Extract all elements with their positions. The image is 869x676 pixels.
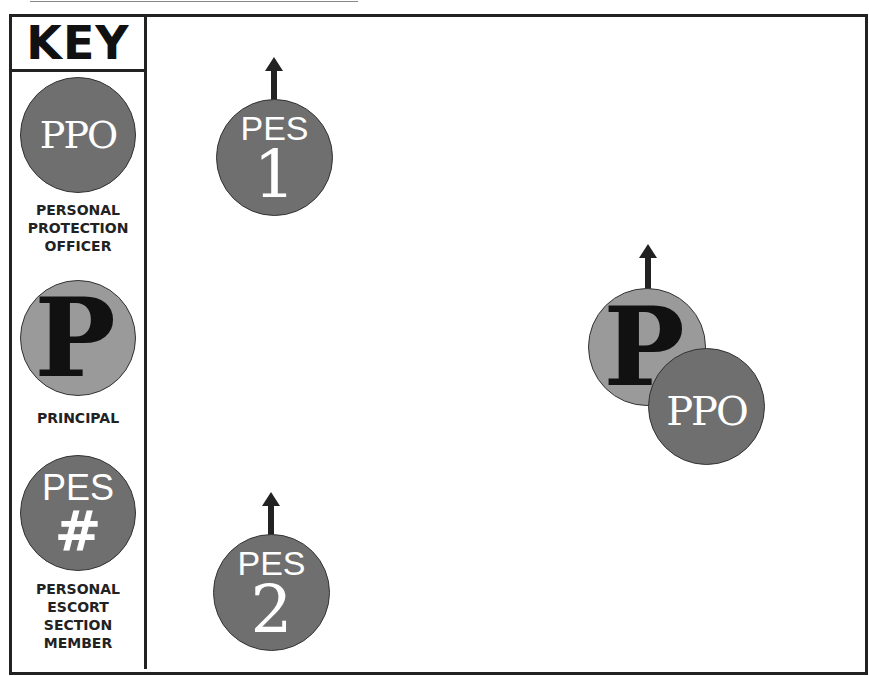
key-ppo-text: PPO bbox=[40, 116, 116, 154]
key-title: KEY bbox=[12, 17, 144, 72]
pes2-marker: PES 2 bbox=[213, 534, 330, 651]
ppo-marker: PPO bbox=[648, 348, 765, 465]
top-rule bbox=[30, 1, 358, 2]
key-ppo-symbol: PPO bbox=[20, 77, 136, 193]
key-pes-label: PERSONAL ESCORT SECTION MEMBER bbox=[12, 580, 144, 652]
key-principal-symbol: P bbox=[20, 280, 136, 396]
pes1-marker: PES 1 bbox=[216, 99, 333, 216]
key-pes-symbol: PES # bbox=[20, 455, 136, 571]
key-principal-text: P bbox=[34, 284, 115, 392]
key-principal-label: PRINCIPAL bbox=[12, 409, 144, 427]
key-ppo-label: PERSONAL PROTECTION OFFICER bbox=[12, 201, 144, 255]
